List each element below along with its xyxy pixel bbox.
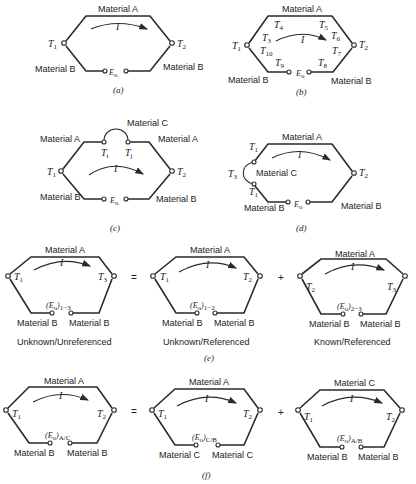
- thermocouple-circuits-figure: Material A I T1 T2 Material B Material B…: [0, 0, 416, 484]
- panel-e1: Material A I T1 T3 (Eo)1−3 Material B Ma…: [6, 245, 117, 347]
- label-t8: T8: [318, 57, 328, 70]
- label-top-material: Material A: [189, 377, 229, 387]
- top-wire: [254, 144, 352, 171]
- label-t-right: T2: [243, 408, 253, 421]
- bottom-left-wire: [10, 279, 50, 313]
- terminal-right: [307, 70, 311, 74]
- junction-left: [296, 408, 301, 413]
- label-t3: T3: [262, 32, 272, 45]
- label-top-material: Material A: [335, 249, 375, 259]
- junction-t1-upper: [252, 160, 256, 164]
- label-t-left: T1: [12, 408, 22, 421]
- label-status: Unknown/Referenced: [163, 337, 250, 347]
- label-emf: Eo: [109, 196, 119, 207]
- label-t-right: T3: [98, 271, 108, 284]
- label-right-material: Material B: [69, 318, 110, 328]
- label-left-material: Material B: [35, 64, 76, 74]
- label-left-material: Material C: [159, 450, 201, 460]
- label-t5: T5: [319, 19, 329, 32]
- caption-a: (a): [113, 85, 124, 95]
- label-emf: (Eo)A/C: [45, 431, 71, 442]
- label-t-left: T1: [160, 271, 170, 284]
- bottom-right-wire: [310, 176, 352, 202]
- label-emf: Eo: [108, 68, 118, 79]
- junction-left: [4, 408, 9, 413]
- label-emf: (Eo)1−2: [190, 301, 215, 312]
- label-right-material: Material B: [214, 318, 255, 328]
- junction-left: [151, 274, 156, 279]
- label-top-material: Material A: [190, 245, 230, 255]
- label-t-right: T3: [387, 281, 397, 294]
- label-current: I: [350, 261, 355, 272]
- label-emf: (Eo)2−3: [337, 302, 362, 313]
- terminal-right: [124, 69, 128, 73]
- terminal-left: [48, 441, 52, 445]
- label-left-material: Material B: [309, 319, 350, 329]
- junction-right: [112, 274, 117, 279]
- label-current: I: [115, 21, 120, 32]
- label-current: I: [113, 163, 118, 174]
- label-right-material: Material B: [67, 448, 108, 458]
- label-top-material: Material A: [282, 4, 322, 14]
- panel-f3: Material C I T1 T2 (Eo)A/B Material B Ma…: [296, 378, 405, 462]
- junction-right: [400, 408, 405, 413]
- label-t2: T2: [359, 39, 369, 52]
- label-t2: T2: [177, 38, 187, 51]
- label-top-left-material: Material A: [40, 134, 80, 144]
- terminal-left: [102, 197, 106, 201]
- label-tj: Tj: [125, 147, 133, 160]
- equals-sign: =: [131, 272, 137, 283]
- junction-left: [150, 408, 155, 413]
- label-t-right: T2: [97, 408, 107, 421]
- label-left-material: Material B: [228, 75, 269, 85]
- label-emf: Eo: [293, 200, 303, 211]
- label-t1: T1: [48, 38, 58, 51]
- label-emf: (Eo)1−3: [46, 301, 71, 312]
- bottom-right-wire: [217, 279, 258, 313]
- equals-sign: =: [131, 406, 137, 417]
- label-top-material: Material C: [334, 378, 376, 388]
- label-right-material: Material C: [212, 450, 254, 460]
- label-current: I: [205, 259, 210, 270]
- bottom-right-wire: [363, 279, 403, 314]
- label-insert-material: Material C: [127, 118, 169, 128]
- label-current: I: [58, 390, 63, 401]
- label-current: I: [297, 149, 302, 160]
- material-c-loop: [243, 162, 253, 184]
- bottom-right-wire: [73, 279, 112, 313]
- panel-f1: Material A I T1 T2 (Eo)A/C Material B Ma…: [4, 376, 117, 458]
- terminal-left: [194, 443, 198, 447]
- label-t-right: T2: [386, 411, 396, 424]
- junction-right: [258, 274, 263, 279]
- plus-sign: +: [278, 407, 284, 418]
- junction-t2: [170, 169, 175, 174]
- circuit-a: Material A I T1 T2 Material B Material B…: [35, 4, 204, 95]
- bottom-left-wire: [155, 279, 195, 313]
- label-ti: Ti: [101, 147, 109, 160]
- label-right-material: Material B: [341, 201, 382, 211]
- circuit-d: Material A I T1 T1 T3 Material C T2 Mate…: [228, 132, 382, 233]
- label-current: I: [349, 393, 354, 404]
- caption-b: (b): [296, 87, 307, 97]
- bottom-right-wire: [220, 413, 258, 445]
- label-t2: T2: [359, 167, 369, 180]
- terminal-left: [286, 200, 290, 204]
- label-left-material: Material B: [40, 192, 81, 202]
- label-t-left: T1: [14, 271, 24, 284]
- terminal-right: [359, 445, 363, 449]
- terminal-left: [287, 70, 291, 74]
- label-status: Known/Referenced: [314, 337, 391, 347]
- junction-t1: [62, 41, 67, 46]
- label-top-material: Material A: [282, 132, 322, 142]
- material-c-arc: [104, 129, 128, 141]
- panel-e2: Material A I T1 T2 (Eo)1−2 Material B Ma…: [151, 245, 263, 347]
- terminal-left: [340, 445, 344, 449]
- label-top-material: Material A: [98, 4, 138, 14]
- junction-left: [298, 274, 303, 279]
- label-t-left: T2: [306, 281, 316, 294]
- label-current: I: [204, 393, 209, 404]
- terminal-right: [306, 200, 310, 204]
- junction-t1: [245, 43, 250, 48]
- terminal-right: [124, 197, 128, 201]
- panel-f2: Material A I T1 T2 (Eo)C/B Material C Ma…: [150, 377, 263, 480]
